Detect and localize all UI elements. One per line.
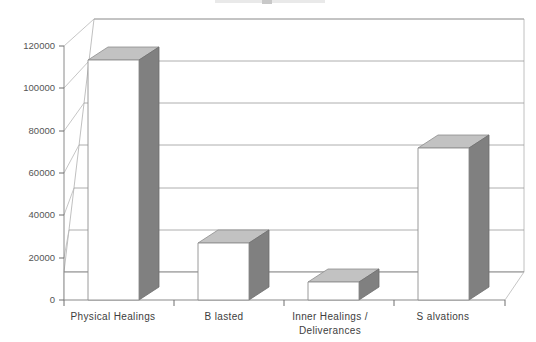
y-tick-label: 80000 [29,125,55,136]
bar-physical-healings[interactable] [88,47,159,300]
x-axis [64,300,505,306]
x-category-label: Inner Healings / [292,311,368,322]
x-category-label: B lasted [205,311,244,322]
chart-title-remnant [215,0,325,4]
y-tick-label: 20000 [29,252,55,263]
y-axis-tick-labels: 120000 100000 80000 60000 40000 20000 0 [23,40,55,305]
bar-chart-3d: 120000 100000 80000 60000 40000 20000 0 [0,0,536,342]
x-axis-category-labels: Physical Healings B lasted Inner Healing… [71,311,470,336]
y-tick-label: 100000 [23,82,55,93]
y-tick-label: 40000 [29,209,55,220]
x-category-label: S alvations [417,311,470,322]
x-category-label: Physical Healings [71,311,156,322]
y-tick-label: 120000 [23,40,55,51]
y-tick-label: 0 [50,294,55,305]
bar-blasted[interactable] [198,230,269,300]
chart-container: 120000 100000 80000 60000 40000 20000 0 [0,0,536,342]
y-tick-label: 60000 [29,167,55,178]
bar-salvations[interactable] [418,135,489,300]
x-category-label-line2: Deliverances [299,325,361,336]
y-axis [59,46,64,300]
